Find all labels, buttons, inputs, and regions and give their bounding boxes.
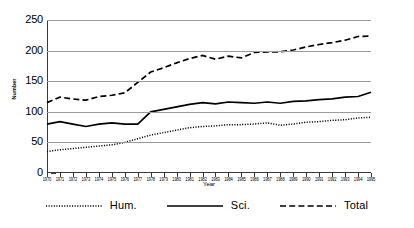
gridline bbox=[47, 51, 371, 52]
y-axis-ticks: 050100150200250 bbox=[8, 20, 43, 173]
line-chart: Number 050100150200250 19701971197219731… bbox=[0, 0, 414, 228]
series-line-total bbox=[47, 36, 371, 103]
y-tick-label: 50 bbox=[31, 136, 43, 147]
series-lines bbox=[47, 20, 371, 173]
gridline bbox=[47, 112, 371, 113]
legend-swatch-solid-icon bbox=[167, 201, 223, 211]
y-tick-label: 250 bbox=[25, 14, 43, 25]
series-line-hum bbox=[47, 117, 371, 151]
legend-item-hum[interactable]: Hum. bbox=[46, 200, 137, 211]
legend-label: Sci. bbox=[231, 200, 250, 211]
chart-legend: Hum.Sci.Total bbox=[0, 200, 414, 211]
y-tick-label: 100 bbox=[25, 106, 43, 117]
y-tick-label: 200 bbox=[25, 45, 43, 56]
legend-label: Hum. bbox=[110, 200, 137, 211]
legend-label: Total bbox=[344, 200, 368, 211]
gridline bbox=[47, 142, 371, 143]
legend-item-total[interactable]: Total bbox=[280, 200, 368, 211]
legend-swatch-dotted-icon bbox=[46, 201, 102, 211]
y-tick-label: 150 bbox=[25, 75, 43, 86]
gridline bbox=[47, 81, 371, 82]
legend-item-sci[interactable]: Sci. bbox=[167, 200, 250, 211]
x-axis-title: Year bbox=[47, 181, 371, 187]
legend-swatch-dashed-icon bbox=[280, 201, 336, 211]
gridline bbox=[47, 20, 371, 21]
plot-area bbox=[47, 20, 371, 173]
